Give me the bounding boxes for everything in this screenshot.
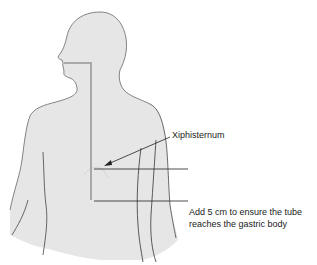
note-line-1: Add 5 cm to ensure the tube <box>189 206 302 218</box>
body-silhouette <box>10 12 178 260</box>
xiphisternum-label: Xiphisternum <box>172 129 225 141</box>
note-label: Add 5 cm to ensure the tube reaches the … <box>189 206 302 230</box>
note-line-2: reaches the gastric body <box>189 218 302 230</box>
